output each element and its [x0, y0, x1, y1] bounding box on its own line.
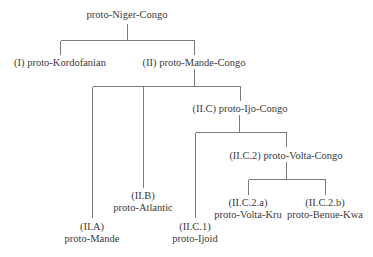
node-proto-benue-kwa: (II.C.2.b) proto-Benue-Kwa	[287, 197, 363, 221]
node-proto-mande-congo: (II) proto-Mande-Congo	[143, 57, 246, 69]
node-code: (II.B)	[113, 190, 172, 202]
node-code: (II.A)	[65, 221, 120, 233]
node-proto-mande: (II.A) proto-Mande	[65, 221, 120, 245]
node-code: (II.C.2.a)	[214, 197, 281, 209]
node-proto-ijo-congo: (II.C) proto-Ijo-Congo	[192, 103, 287, 115]
node-name: proto-Mande	[65, 233, 120, 245]
node-code: (II.C.1)	[172, 221, 218, 233]
node-proto-volta-congo: (II.C.2) proto-Volta-Congo	[229, 150, 342, 162]
node-code: (II.C.2.b)	[287, 197, 363, 209]
node-proto-volta-kru: (II.C.2.a) proto-Volta-Kru	[214, 197, 281, 221]
node-name: proto-Atlantic	[113, 202, 172, 214]
node-proto-atlantic: (II.B) proto-Atlantic	[113, 190, 172, 214]
node-name: proto-Ijoid	[172, 233, 218, 245]
node-name: proto-Benue-Kwa	[287, 209, 363, 221]
node-name: proto-Volta-Kru	[214, 209, 281, 221]
node-proto-kordofanian: (I) proto-Kordofanian	[14, 57, 106, 69]
node-proto-niger-congo: proto-Niger-Congo	[87, 9, 168, 21]
node-proto-ijoid: (II.C.1) proto-Ijoid	[172, 221, 218, 245]
